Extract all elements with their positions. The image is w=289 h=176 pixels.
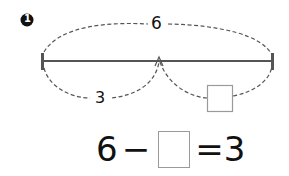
part-arc-right-a — [160, 62, 207, 98]
equation-minus: − — [122, 129, 151, 169]
end-tick — [271, 53, 274, 70]
total-arc-left — [44, 24, 148, 52]
equation-result: 3 — [224, 129, 246, 169]
start-tick — [41, 53, 44, 70]
equation-minuend: 6 — [96, 129, 118, 169]
problem-number: 1 — [24, 14, 31, 24]
total-arc-right — [168, 24, 272, 55]
part-label: 3 — [95, 90, 105, 106]
equation-equals: = — [195, 129, 224, 169]
part-arc-left-b — [112, 62, 159, 98]
part-arc-left-a — [44, 68, 90, 98]
diagram-answer-box — [208, 86, 233, 112]
part-arc-right-b — [233, 66, 272, 96]
equation-answer-box[interactable] — [158, 131, 190, 168]
total-label: 6 — [151, 15, 162, 32]
equation: 6 − = 3 — [96, 129, 245, 169]
